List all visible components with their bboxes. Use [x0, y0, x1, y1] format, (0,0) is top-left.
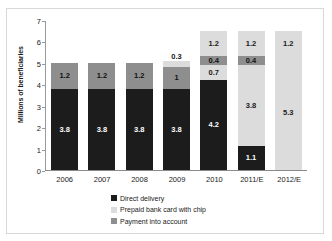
bar-segment[interactable]: 1.2: [200, 31, 227, 57]
chart-legend: Direct deliveryPrepaid bank card with ch…: [111, 193, 206, 228]
x-axis-tick-label: 2011/E: [233, 175, 270, 184]
legend-item[interactable]: Payment into account: [111, 216, 206, 226]
bar-segment-label: 1.2: [97, 72, 107, 80]
bar-segment-label: 0.4: [246, 57, 256, 65]
bar-group: 3.81.2: [121, 21, 158, 170]
legend-item[interactable]: Prepaid bank card with chip: [111, 205, 206, 215]
bar-segment-label: 3.8: [134, 126, 144, 134]
bar-segment[interactable]: 1.2: [51, 63, 78, 89]
y-axis-tick-mark: [42, 64, 45, 65]
y-axis-tick-mark: [42, 107, 45, 108]
plot-area: 01234567 3.81.23.81.23.81.23.810.34.20.7…: [45, 21, 307, 171]
bar-segment-label: 1.2: [246, 40, 256, 48]
bar-segment[interactable]: 4.2: [200, 80, 227, 170]
y-axis-tick-label: 2: [37, 124, 41, 133]
y-axis-tick-label: 1: [37, 145, 41, 154]
y-axis-tick-label: 6: [37, 38, 41, 47]
bar-stack[interactable]: 1.13.80.41.2: [238, 31, 265, 170]
bar-segment[interactable]: 0.4: [200, 56, 227, 65]
x-axis-tick-label: 2012/E: [271, 175, 308, 184]
bar-segment-label: 3.8: [97, 126, 107, 134]
bar-group: 4.20.70.41.2: [195, 21, 232, 170]
bar-segment-label: 1.2: [209, 40, 219, 48]
bar-group: 3.810.3: [158, 21, 195, 170]
y-axis-tick-mark: [42, 150, 45, 151]
y-axis-tick-label: 3: [37, 102, 41, 111]
bars-layer: 3.81.23.81.23.81.23.810.34.20.70.41.21.1…: [46, 21, 307, 170]
bar-segment[interactable]: 1.2: [238, 31, 265, 57]
x-axis-tick-label: 2010: [196, 175, 233, 184]
bar-segment[interactable]: 1.2: [126, 63, 153, 89]
x-axis-line: [45, 170, 307, 171]
bar-stack[interactable]: 3.81.2: [126, 63, 153, 170]
bar-segment-label: 1.2: [134, 72, 144, 80]
x-axis-tick-label: 2008: [121, 175, 158, 184]
bar-segment[interactable]: 5.3: [275, 56, 302, 170]
bar-segment-label: 1.2: [59, 72, 69, 80]
legend-swatch-icon: [111, 195, 117, 201]
bar-segment-label: 1.2: [283, 40, 293, 48]
bar-segment-label: 1.1: [246, 154, 256, 162]
bar-stack[interactable]: 3.81.2: [51, 63, 78, 170]
bar-segment[interactable]: 3.8: [238, 65, 265, 146]
stacked-bar-chart: Millions of beneficiaries 01234567 3.81.…: [6, 8, 324, 234]
bar-group: 5.31.2: [270, 21, 307, 170]
bar-segment[interactable]: 3.8: [88, 89, 115, 170]
bar-segment-label: 3.8: [171, 126, 181, 134]
bar-segment-label: 3.8: [59, 126, 69, 134]
bar-group: 3.81.2: [83, 21, 120, 170]
bar-segment[interactable]: 1: [163, 67, 190, 88]
y-axis-tick-label: 4: [37, 81, 41, 90]
bar-group: 1.13.80.41.2: [232, 21, 269, 170]
bar-segment[interactable]: 3.8: [163, 89, 190, 170]
bar-stack[interactable]: 3.81.2: [88, 63, 115, 170]
bar-stack[interactable]: 4.20.70.41.2: [200, 31, 227, 170]
bar-segment[interactable]: 3.8: [126, 89, 153, 170]
y-axis-title: Millions of beneficiaries: [17, 30, 24, 140]
legend-swatch-icon: [111, 207, 117, 213]
bar-segment[interactable]: 0.4: [238, 56, 265, 65]
bar-segment[interactable]: 0.7: [200, 65, 227, 80]
y-axis-tick-label: 5: [37, 59, 41, 68]
bar-segment[interactable]: 1.1: [238, 146, 265, 170]
bar-stack[interactable]: 3.810.3: [163, 61, 190, 170]
x-axis-tick-label: 2006: [46, 175, 83, 184]
bar-segment-label: 5.3: [283, 109, 293, 117]
bar-segment[interactable]: 1.2: [275, 31, 302, 57]
bar-group: 3.81.2: [46, 21, 83, 170]
bar-segment-label: 4.2: [209, 121, 219, 129]
x-axis-labels: 200620072008200920102011/E2012/E: [46, 175, 308, 184]
legend-item-label: Direct delivery: [120, 195, 164, 202]
bar-segment-label: 0.7: [209, 69, 219, 77]
bar-segment-label: 1: [174, 74, 178, 82]
legend-item[interactable]: Direct delivery: [111, 193, 206, 203]
bar-segment[interactable]: 3.8: [51, 89, 78, 170]
y-axis-tick-mark: [42, 21, 45, 22]
legend-item-label: Payment into account: [120, 218, 187, 225]
bar-segment[interactable]: 1.2: [88, 63, 115, 89]
bar-segment-label: 0.3: [171, 53, 181, 61]
x-axis-tick-label: 2009: [158, 175, 195, 184]
bar-stack[interactable]: 5.31.2: [275, 31, 302, 170]
bar-segment[interactable]: 0.3: [163, 61, 190, 67]
y-axis-tick-mark: [42, 171, 45, 172]
bar-segment-label: 3.8: [246, 102, 256, 110]
y-axis-tick-mark: [42, 128, 45, 129]
y-axis-tick-label: 7: [37, 17, 41, 26]
x-axis-tick-label: 2007: [83, 175, 120, 184]
bar-segment-label: 0.4: [209, 57, 219, 65]
legend-item-label: Prepaid bank card with chip: [120, 206, 206, 213]
legend-swatch-icon: [111, 218, 117, 224]
y-axis-tick-mark: [42, 42, 45, 43]
y-axis-tick-label: 0: [37, 167, 41, 176]
y-axis-tick-mark: [42, 85, 45, 86]
